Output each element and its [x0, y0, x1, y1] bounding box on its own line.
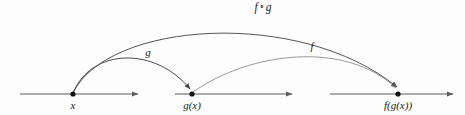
point-fgx	[395, 91, 400, 96]
compose-operator-icon: ∘	[258, 2, 266, 12]
arc-g-path	[73, 58, 190, 93]
arc-f-path	[193, 57, 396, 92]
function-composition-diagram: x g(x) f(g(x)) g f f∘g	[0, 0, 465, 115]
compose-label-g: g	[266, 1, 272, 13]
arc-f-compose-g-path	[73, 33, 397, 93]
point-label-fgx: f(g(x))	[384, 100, 412, 111]
point-x	[70, 91, 75, 96]
arc-label-g: g	[145, 47, 151, 58]
arc-label-f-compose-g: f∘g	[255, 2, 272, 14]
diagram-canvas	[0, 0, 465, 115]
point-label-gx: g(x)	[183, 100, 201, 111]
point-gx	[189, 91, 194, 96]
point-label-x: x	[71, 100, 76, 111]
arc-label-f: f	[310, 41, 313, 52]
